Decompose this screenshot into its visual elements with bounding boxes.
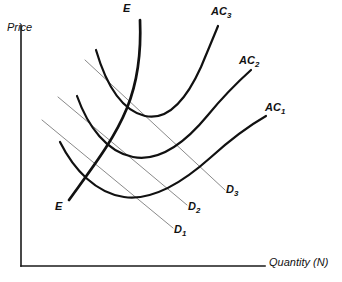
x-axis-label: Quantity (N) <box>269 256 328 268</box>
envelope-label-e-bottom: E <box>55 200 62 212</box>
ac3-base: AC <box>211 5 227 17</box>
plot-canvas <box>0 0 342 282</box>
average-cost-label-ac2: AC2 <box>239 54 259 69</box>
d2-subscript: 2 <box>196 206 200 215</box>
demand-label-d3: D3 <box>226 183 238 198</box>
d1-base: D <box>174 223 182 235</box>
d3-subscript: 3 <box>234 189 238 198</box>
ac3-subscript: 3 <box>227 11 231 20</box>
ac2-base: AC <box>239 54 255 66</box>
ac1-base: AC <box>265 101 281 113</box>
average-cost-curve-ac3 <box>96 26 218 117</box>
demand-label-d1: D1 <box>174 223 186 238</box>
average-cost-label-ac3: AC3 <box>211 5 231 20</box>
ac1-subscript: 1 <box>281 107 285 116</box>
d2-base: D <box>188 200 196 212</box>
d1-subscript: 1 <box>182 229 186 238</box>
demand-label-d2: D2 <box>188 200 200 215</box>
y-axis-label: Price <box>7 21 32 33</box>
d3-base: D <box>226 183 234 195</box>
envelope-label-e-top: E <box>123 2 130 14</box>
average-cost-label-ac1: AC1 <box>265 101 285 116</box>
ac2-subscript: 2 <box>255 60 259 69</box>
economics-diagram-figure: Price Quantity (N) E E AC3 AC2 AC1 D3 D2… <box>0 0 342 282</box>
